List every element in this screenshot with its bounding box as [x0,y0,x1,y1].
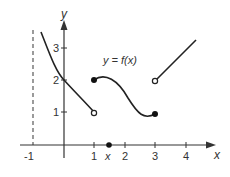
curve-piece-1 [41,32,94,112]
y-tick-label: 2 [53,74,59,86]
closed-point-3-1 [152,111,158,117]
y-axis-arrow-icon [61,20,68,30]
function-label: y = f(x) [102,54,137,66]
function-graph: -1 1 2 3 4 1 2 3 x y y = f(x) x [0,0,230,177]
x-tick-label: 1 [91,150,97,162]
open-point-3-2 [152,78,157,83]
x-tick-label: 2 [122,150,128,162]
x-marker-point [106,142,112,148]
x-marker-label: x [104,150,111,162]
x-axis-label: x [213,148,221,162]
curve-piece-2 [94,77,155,116]
y-tick-label: 3 [53,42,59,54]
x-tick-label: 4 [183,150,189,162]
x-tick-label: 3 [152,150,158,162]
line-piece-3 [157,40,196,79]
y-axis-label: y [60,7,68,21]
closed-point-1-2 [91,77,97,83]
y-tick-label: 1 [53,106,59,118]
open-point-1-1 [91,110,96,115]
x-tick-label: -1 [24,150,34,162]
